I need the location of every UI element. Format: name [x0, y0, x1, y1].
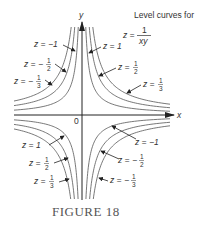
- svg-text:3: 3: [132, 181, 136, 188]
- svg-text:3: 3: [159, 85, 163, 92]
- title-eq-den: xy: [138, 36, 148, 46]
- svg-text:2: 2: [134, 68, 138, 75]
- svg-text:3: 3: [37, 82, 41, 89]
- svg-text:z = −1: z = −1: [33, 39, 58, 49]
- title-eq-num: 1: [142, 25, 147, 35]
- svg-text:2: 2: [140, 161, 144, 168]
- label-q4-zm13: z = − 1 3: [99, 173, 136, 188]
- label-q1-z12: z = 1 2: [99, 60, 138, 76]
- svg-text:1: 1: [134, 60, 138, 67]
- label-q4-zm1: z = −1: [112, 126, 159, 147]
- hyperbola-curves: [14, 27, 170, 199]
- svg-text:z = −: z = −: [13, 76, 33, 86]
- label-q4-zm12: z = − 1 2: [101, 151, 144, 168]
- svg-text:1: 1: [45, 156, 49, 163]
- svg-text:3: 3: [50, 182, 54, 189]
- svg-text:1: 1: [132, 173, 136, 180]
- svg-text:z = −: z = −: [109, 175, 129, 185]
- label-q1-z13: z = 1 3: [127, 77, 163, 93]
- svg-text:1: 1: [37, 74, 41, 81]
- svg-text:z = −: z = −: [117, 155, 137, 165]
- x-axis-label: x: [176, 110, 182, 120]
- svg-text:z = −: z = −: [23, 59, 43, 69]
- title-eq-lhs: z =: [122, 30, 135, 40]
- svg-text:z = −1: z = −1: [134, 137, 159, 147]
- svg-text:z = 1: z = 1: [102, 41, 122, 51]
- y-axis-label: y: [78, 10, 84, 20]
- label-q2-zm12: z = − 1 2: [23, 57, 66, 72]
- level-curves-figure: x y 0 Level curves for z = 1 xy z = −1 z…: [0, 0, 203, 225]
- svg-text:z = 1: z = 1: [21, 140, 41, 150]
- svg-text:2: 2: [47, 65, 51, 72]
- svg-text:1: 1: [47, 57, 51, 64]
- label-q3-z13: z = 1 3: [33, 174, 69, 189]
- svg-text:2: 2: [45, 164, 49, 171]
- origin-label: 0: [74, 116, 79, 126]
- title-line1: Level curves for: [134, 10, 194, 20]
- label-q1-z1: z = 1: [89, 41, 122, 53]
- svg-text:1: 1: [50, 174, 54, 181]
- label-q2-zm13: z = − 1 3: [13, 74, 52, 89]
- figure-caption: FIGURE 18: [52, 204, 120, 219]
- svg-text:z =: z =: [142, 79, 155, 89]
- svg-text:1: 1: [159, 77, 163, 84]
- svg-text:1: 1: [140, 153, 144, 160]
- label-q3-z1: z = 1: [21, 136, 64, 150]
- svg-text:z =: z =: [33, 176, 46, 186]
- svg-text:z =: z =: [117, 62, 130, 72]
- svg-text:z =: z =: [28, 158, 41, 168]
